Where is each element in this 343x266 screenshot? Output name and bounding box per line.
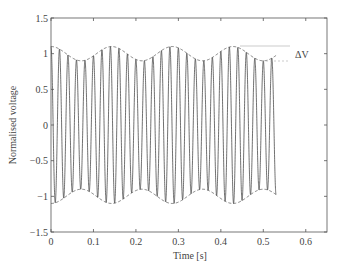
y-tick-label: −0.5 (30, 155, 48, 166)
x-tick-label: 0.1 (87, 236, 100, 247)
voltage-signal-line (51, 47, 276, 204)
chart: 00.10.20.30.40.50.6 −1.5−1−0.500.511.5 T… (0, 0, 343, 266)
x-tick-label: 0.2 (130, 236, 143, 247)
upper-envelope-line (51, 47, 276, 61)
y-tick-label: 1 (43, 48, 48, 59)
y-axis-label: Normalised voltage (7, 85, 18, 164)
y-tick-label: 1.5 (36, 13, 49, 24)
delta-v-label: ΔV (295, 49, 309, 60)
y-tick-label: 0.5 (36, 84, 49, 95)
x-tick-label: 0.3 (172, 236, 185, 247)
annotations: ΔV (240, 46, 309, 61)
y-tick-label: −1.5 (30, 227, 48, 238)
x-axis: 00.10.20.30.40.50.6 (49, 18, 313, 247)
y-tick-label: 0 (43, 120, 48, 131)
plot-area (51, 47, 276, 204)
x-tick-label: 0 (49, 236, 54, 247)
x-axis-label: Time [s] (173, 250, 207, 261)
x-tick-label: 0.6 (300, 236, 313, 247)
x-tick-label: 0.4 (215, 236, 228, 247)
x-tick-label: 0.5 (257, 236, 270, 247)
y-tick-label: −1 (37, 191, 48, 202)
